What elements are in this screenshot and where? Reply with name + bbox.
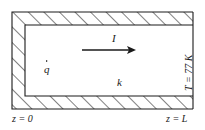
z-origin-label: z = 0 <box>12 114 33 124</box>
wall-hatch-fill <box>12 12 193 109</box>
current-label: I <box>112 33 116 44</box>
boundary-temperature-label: T = 77 K <box>184 55 194 91</box>
insulation-walls <box>12 12 193 109</box>
overdot-accent-icon <box>46 60 48 62</box>
current-arrow <box>82 46 136 54</box>
inner-cavity-boundary <box>25 25 193 96</box>
outer-boundary <box>12 12 193 109</box>
heat-conduction-figure: I q k z = 0 z = L T = 77 K <box>0 0 205 130</box>
figure-diagram <box>0 0 205 130</box>
z-length-label: z = L <box>166 114 187 124</box>
conductivity-label: k <box>117 77 122 88</box>
heat-generation-label: q <box>44 64 50 75</box>
heat-generation-symbol: q <box>44 63 50 75</box>
